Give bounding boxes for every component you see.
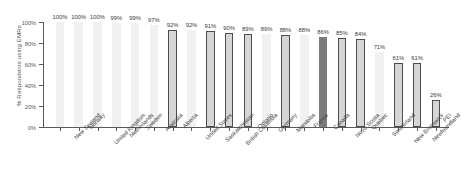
bar-column[interactable]: 99%	[131, 23, 140, 127]
bar-value-label: 61%	[392, 55, 404, 61]
bar-value-label: 97%	[148, 17, 160, 23]
y-tick-label: 80%	[25, 41, 36, 47]
bar-value-label: 88%	[298, 27, 310, 33]
bar-value-label: 99%	[110, 15, 122, 21]
y-tick-label: 40%	[25, 83, 36, 89]
x-tick	[191, 128, 192, 131]
bar-value-label: 100%	[52, 14, 67, 20]
bar-column[interactable]: 84%	[356, 39, 365, 127]
y-tick: 40%	[39, 85, 43, 86]
bar-value-label: 92%	[167, 22, 179, 28]
bar-value-label: 92%	[186, 22, 198, 28]
bar-column[interactable]: 100%	[74, 22, 83, 127]
y-tick: 20%	[39, 106, 43, 107]
x-tick	[154, 128, 155, 131]
x-tick	[379, 128, 380, 131]
x-tick	[229, 128, 230, 131]
bar-column[interactable]: 88%	[281, 35, 290, 127]
bar-value-label: 84%	[355, 31, 367, 37]
bar[interactable]	[168, 30, 177, 127]
bar[interactable]	[56, 22, 65, 127]
bar[interactable]	[112, 23, 121, 127]
bar-value-label: 100%	[90, 14, 105, 20]
bar[interactable]	[281, 35, 290, 127]
bar-value-label: 89%	[242, 26, 254, 32]
y-axis-title: % Respondents using EMRs	[15, 1, 22, 131]
bar-column[interactable]: 88%	[300, 35, 309, 127]
bar-column[interactable]: 92%	[168, 30, 177, 127]
y-tick: 60%	[39, 64, 43, 65]
x-tick	[417, 128, 418, 131]
bar-value-label: 86%	[317, 29, 329, 35]
bar[interactable]	[356, 39, 365, 127]
bar-value-label: 71%	[374, 44, 386, 50]
y-tick-label: 60%	[25, 62, 36, 68]
y-tick-label: 0%	[28, 125, 36, 131]
bar-column[interactable]: 100%	[56, 22, 65, 127]
bar-value-label: 85%	[336, 30, 348, 36]
bar-value-label: 91%	[204, 23, 216, 29]
y-tick: 100%	[39, 22, 43, 23]
y-tick-label: 20%	[25, 104, 36, 110]
plot-area: 100%80%60%40%20%0% 100%100%100%99%99%97%…	[43, 22, 449, 128]
y-tick: 0%	[39, 127, 43, 128]
bar-column[interactable]: 61%	[394, 63, 403, 127]
bar-value-label: 100%	[71, 14, 86, 20]
bar[interactable]	[300, 35, 309, 127]
bar[interactable]	[394, 63, 403, 127]
x-tick	[116, 128, 117, 131]
bar-value-label: 89%	[261, 26, 273, 32]
bar[interactable]	[74, 22, 83, 127]
y-axis-line	[43, 22, 44, 128]
bar-column[interactable]: 91%	[206, 31, 215, 127]
x-tick	[304, 128, 305, 131]
x-tick	[98, 128, 99, 131]
x-tick	[323, 128, 324, 131]
x-tick	[342, 128, 343, 131]
x-tick	[248, 128, 249, 131]
bar-value-label: 90%	[223, 25, 235, 31]
bar-value-label: 26%	[430, 92, 442, 98]
y-tick-label: 100%	[22, 20, 36, 26]
bar-value-label: 88%	[280, 27, 292, 33]
x-axis-line	[43, 127, 449, 128]
bar-value-label: 61%	[411, 55, 423, 61]
bar[interactable]	[206, 31, 215, 127]
bar-column[interactable]: 99%	[112, 23, 121, 127]
x-tick	[60, 128, 61, 131]
bar[interactable]	[131, 23, 140, 127]
bar-value-label: 99%	[129, 15, 141, 21]
y-tick: 80%	[39, 43, 43, 44]
x-tick	[267, 128, 268, 131]
x-tick	[173, 128, 174, 131]
